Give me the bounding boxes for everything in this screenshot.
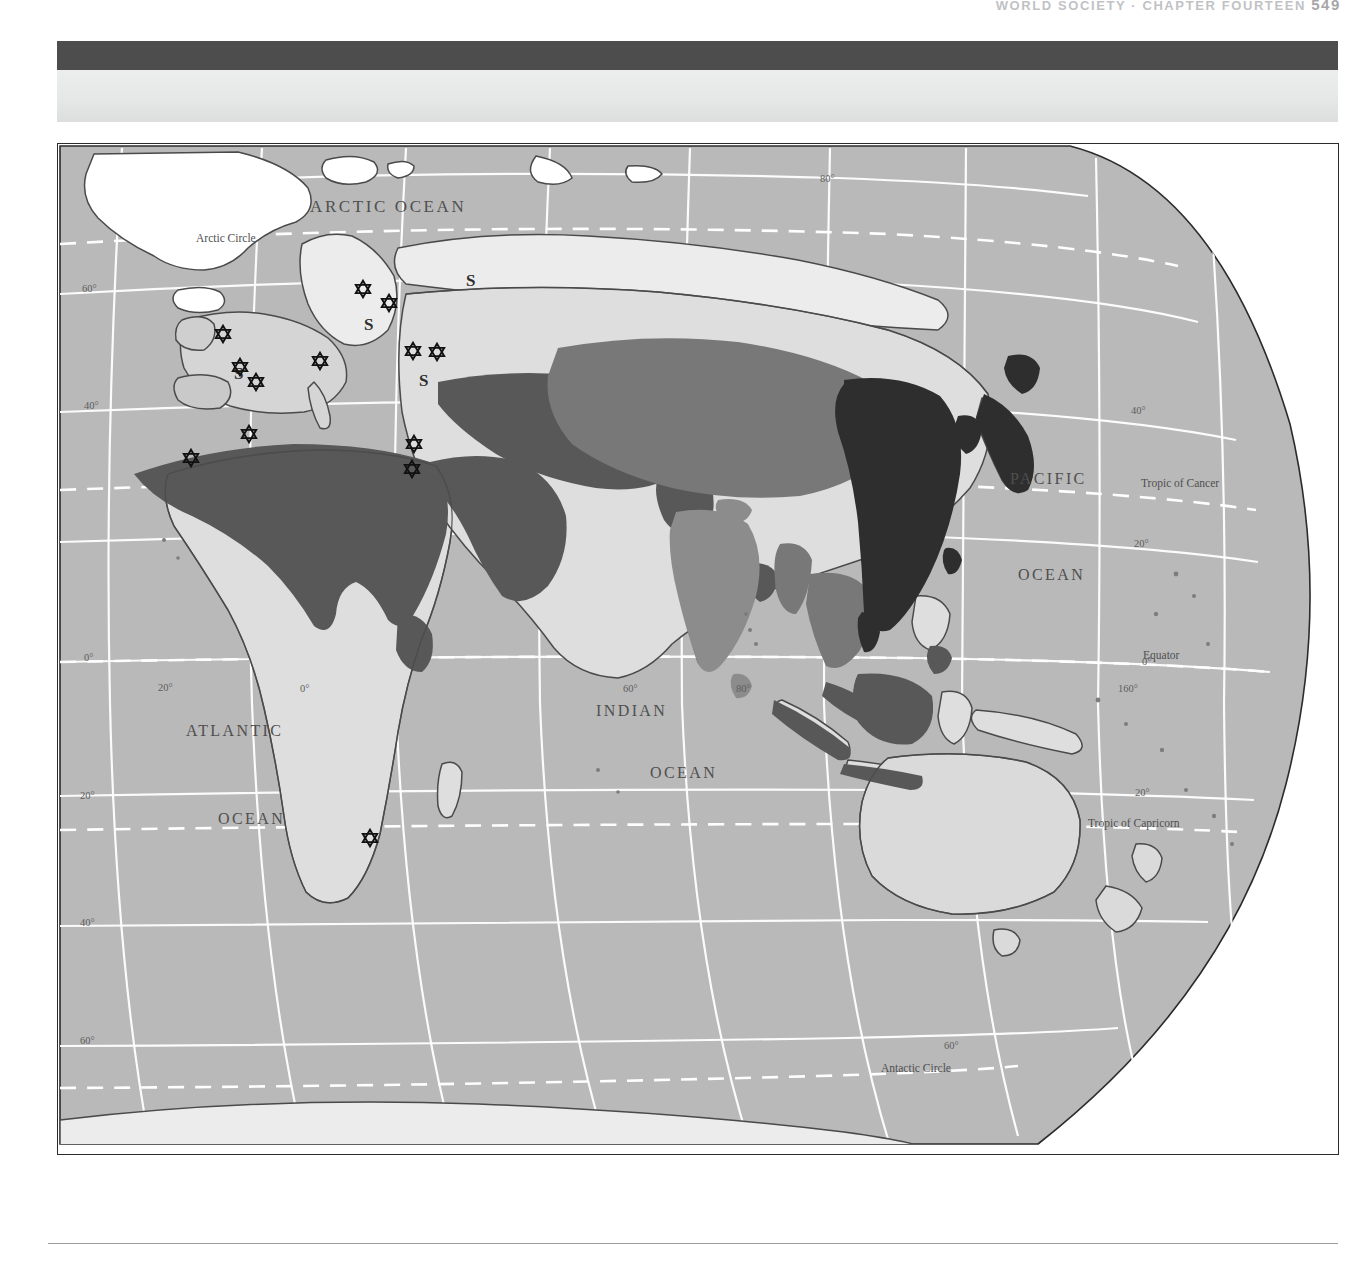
label-atlantic-ocean-2: OCEAN (218, 810, 285, 827)
label-lat-60s-east: 60° (944, 1040, 959, 1051)
label-lat-0-west: 0° (84, 652, 93, 663)
page-bottom-rule (48, 1243, 1338, 1244)
label-indian-ocean-1: INDIAN (596, 702, 667, 719)
label-lon-80e: 80° (736, 683, 751, 694)
label-atlantic-ocean-1: ATLANTIC (186, 722, 283, 739)
running-head: WORLD SOCIETY · CHAPTER FOURTEEN 549 (0, 0, 1363, 13)
banner-bar-dark (57, 41, 1338, 70)
label-indian-ocean-2: OCEAN (650, 764, 717, 781)
sect-marker-baltic: S (364, 315, 373, 334)
sect-marker-siberia: S (466, 271, 475, 290)
label-lon-0: 0° (300, 683, 309, 694)
world-religions-map[interactable]: ARCTIC OCEAN ATLANTIC OCEAN INDIAN OCEAN… (58, 144, 1338, 1154)
label-lat-40n-east: 40° (1131, 405, 1146, 416)
label-lat-20s-west: 20° (80, 790, 95, 801)
label-arctic-ocean: ARCTIC OCEAN (310, 197, 466, 216)
banner-bar-light (57, 70, 1338, 122)
iberia (174, 375, 231, 409)
british-isles (176, 317, 215, 350)
label-tropic-of-capricorn: Tropic of Capricorn (1088, 817, 1180, 830)
running-head-text: WORLD SOCIETY · CHAPTER FOURTEEN (996, 0, 1306, 13)
label-pacific-ocean-1: PACIFIC (1010, 470, 1087, 487)
label-lon-160e: 160° (1118, 683, 1138, 694)
label-arctic-circle: Arctic Circle (196, 232, 256, 244)
label-lat-80n-top: 80° (820, 173, 835, 184)
label-tropic-of-cancer: Tropic of Cancer (1141, 477, 1219, 490)
label-antarctic-circle: Antactic Circle (881, 1062, 951, 1074)
sect-marker-west-russia: S (419, 371, 428, 390)
label-lat-0-east: 0° (1142, 656, 1151, 667)
svalbard (322, 156, 378, 184)
label-lon-20w: 20° (158, 682, 173, 693)
label-lat-60s-west: 60° (80, 1035, 95, 1046)
page-folio: 549 (1311, 0, 1341, 13)
label-lat-20s-east: 20° (1135, 787, 1150, 798)
label-lat-60n-west: 60° (82, 283, 97, 294)
label-lat-40s-west: 40° (80, 917, 95, 928)
label-lon-60e: 60° (623, 683, 638, 694)
label-lat-40n-west: 40° (84, 400, 99, 411)
label-pacific-ocean-2: OCEAN (1018, 566, 1085, 583)
label-lat-20n-east: 20° (1134, 538, 1149, 549)
map-frame: ARCTIC OCEAN ATLANTIC OCEAN INDIAN OCEAN… (57, 143, 1339, 1155)
iceland (173, 287, 225, 312)
